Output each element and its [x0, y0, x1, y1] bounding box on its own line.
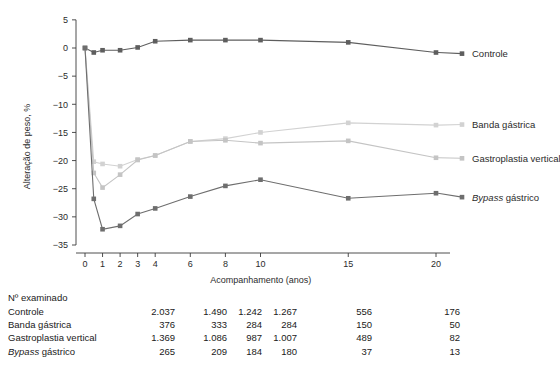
series-line [85, 48, 436, 188]
series-marker [118, 48, 123, 53]
table-cell: 265 [159, 345, 175, 358]
table-cell: 176 [444, 305, 460, 318]
y-tick-label: −25 [53, 184, 68, 194]
x-tick-label: 15 [343, 259, 353, 269]
series-marker [91, 50, 96, 55]
legend-marker [460, 156, 465, 161]
series-marker [258, 177, 263, 182]
legend-label: Banda gástrica [472, 119, 536, 130]
legend-connector [438, 193, 462, 197]
y-tick-label: −5 [58, 71, 68, 81]
x-tick-label: 4 [153, 259, 158, 269]
series-marker [100, 185, 105, 190]
series-marker [434, 50, 439, 55]
series-marker [434, 123, 439, 128]
table-cell: 1.490 [203, 305, 227, 318]
series-marker [346, 121, 351, 126]
table-cell: 13 [449, 345, 460, 358]
table-row-label: Gastroplastia vertical [8, 331, 97, 344]
table-row: Banda gástrica37633328428415050 [0, 318, 560, 331]
y-tick-label: −20 [53, 156, 68, 166]
legend-label: Bypass gástrico [472, 192, 539, 203]
legend-label: Controle [472, 48, 508, 59]
table-cell: 1.086 [203, 331, 227, 344]
table-cell: 1.267 [273, 305, 297, 318]
table-cell: 489 [356, 331, 372, 344]
series-marker [153, 206, 158, 211]
series-marker [135, 158, 140, 163]
table-cell: 180 [281, 345, 297, 358]
x-tick-label: 10 [255, 259, 265, 269]
x-axis-title: Acompanhamento (anos) [210, 275, 311, 285]
series-marker [100, 162, 105, 167]
series-marker [100, 227, 105, 232]
y-tick-label: −10 [53, 100, 68, 110]
series-marker [118, 164, 123, 169]
table-cell: 82 [449, 331, 460, 344]
series-marker [118, 172, 123, 177]
x-tick-label: 8 [223, 259, 228, 269]
series-marker [153, 153, 158, 158]
figure-root: 50−5−10−15−20−25−30−350123468101520Acomp… [0, 0, 560, 369]
table-cell: 284 [281, 318, 297, 331]
series-marker [258, 130, 263, 135]
y-tick-label: −35 [53, 240, 68, 250]
table-row: Bypass gástrico2652091841803713 [0, 345, 560, 358]
series-marker [91, 197, 96, 202]
table-cell: 284 [246, 318, 262, 331]
series-marker [346, 40, 351, 45]
table-cell: 987 [246, 331, 262, 344]
table-row-label: Bypass gástrico [8, 345, 75, 358]
x-tick-label: 6 [188, 259, 193, 269]
y-tick-label: −30 [53, 212, 68, 222]
y-tick-label: 0 [63, 43, 68, 53]
table-cell: 37 [361, 345, 372, 358]
x-tick-label: 0 [82, 259, 87, 269]
series-line [85, 48, 436, 166]
y-tick-label: −15 [53, 128, 68, 138]
y-axis-title: Alteração de peso, % [22, 104, 32, 190]
table-cell: 376 [159, 318, 175, 331]
table-cell: 1.007 [273, 331, 297, 344]
table-cell: 2.037 [151, 305, 175, 318]
x-axis-ticks: 0123468101520 [82, 253, 441, 269]
series-marker [135, 45, 140, 50]
series-marker [258, 141, 263, 146]
data-series: Controle [83, 38, 508, 59]
legend-marker [460, 122, 465, 127]
table-cell: 150 [356, 318, 372, 331]
legend-marker [460, 195, 465, 200]
series-marker [434, 155, 439, 160]
series-marker [100, 48, 105, 53]
series-marker [223, 184, 228, 189]
x-tick-label: 20 [431, 259, 441, 269]
table-cell: 209 [211, 345, 227, 358]
legend-connector [438, 125, 462, 126]
table-row: Gastroplastia vertical1.3691.0869871.007… [0, 331, 560, 344]
legend-marker [460, 51, 465, 56]
x-tick-label: 2 [118, 259, 123, 269]
x-tick-label: 3 [135, 259, 140, 269]
table-cell: 556 [356, 305, 372, 318]
series-marker [258, 38, 263, 43]
table-cell: 50 [449, 318, 460, 331]
series-marker [118, 224, 123, 229]
series-marker-origin [83, 46, 88, 51]
table-row-label: Banda gástrica [8, 318, 71, 331]
legend-connector [438, 53, 462, 54]
series-marker [223, 138, 228, 143]
table-cell: 333 [211, 318, 227, 331]
series-marker [434, 191, 439, 196]
data-series: Bypass gástrico [83, 46, 539, 232]
weight-change-line-chart: 50−5−10−15−20−25−30−350123468101520Acomp… [0, 0, 560, 290]
table-cell: 1.242 [238, 305, 262, 318]
legend-connector [438, 158, 462, 159]
data-series: Banda gástrica [83, 46, 536, 169]
y-axis-ticks: 50−5−10−15−20−25−30−35 [53, 15, 76, 250]
table-cell: 1.369 [151, 331, 175, 344]
series-marker [346, 139, 351, 144]
table-title: Nº examinado [8, 291, 67, 304]
table-row-label: Controle [8, 305, 44, 318]
x-tick-label: 1 [100, 259, 105, 269]
legend-label: Gastroplastia vertical [472, 153, 560, 164]
